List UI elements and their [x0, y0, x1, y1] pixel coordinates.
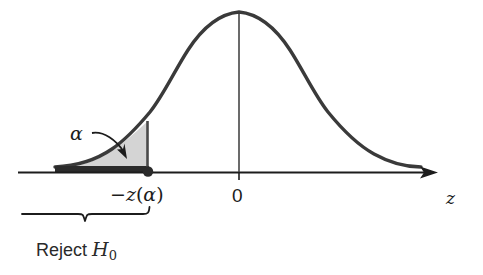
reject-caption: Reject H0	[36, 240, 117, 262]
z-axis-label: z	[446, 190, 455, 207]
statistics-figure: α −z(α) 0 z Reject H0	[0, 0, 483, 275]
critical-minus-sign: −	[110, 183, 126, 205]
null-hypothesis-symbol: H	[92, 238, 109, 260]
null-hypothesis-subscript: 0	[109, 248, 117, 263]
normal-curve	[55, 12, 421, 167]
critical-close-paren: )	[156, 183, 163, 205]
alpha-label: α	[70, 124, 83, 143]
critical-point-dot	[143, 166, 153, 176]
critical-value-label: −z(α)	[110, 185, 164, 204]
origin-label: 0	[232, 186, 243, 205]
critical-alpha-symbol: α	[143, 183, 156, 205]
reject-brace	[22, 207, 150, 221]
reject-word: Reject	[36, 240, 87, 260]
critical-z-symbol: z	[126, 183, 136, 205]
